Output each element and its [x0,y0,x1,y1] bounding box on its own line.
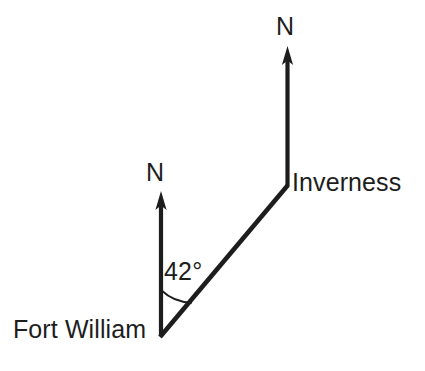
place-label-inverness: Inverness [292,170,401,195]
angle-arc [161,290,192,303]
diagram-strokes [155,46,293,337]
bearing-diagram: N N Inverness Fort William 42° [0,0,425,371]
north-label-inverness: N [276,14,294,39]
angle-label: 42° [164,259,202,284]
place-label-fort-william: Fort William [13,317,146,342]
north-label-fort-william: N [146,160,164,185]
